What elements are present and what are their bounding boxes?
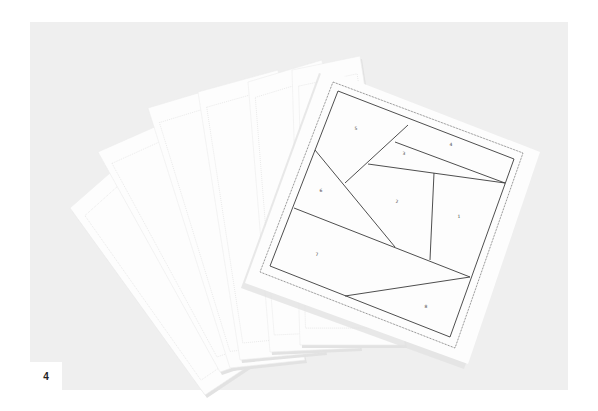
- photo-scene: 12345678: [0, 0, 598, 411]
- piece-number-7: 7: [316, 252, 319, 257]
- piece-number-8: 8: [425, 304, 428, 309]
- piece-number-3: 3: [403, 151, 406, 156]
- figure-number-label: 4: [30, 362, 62, 390]
- piece-number-6: 6: [320, 188, 323, 193]
- piece-number-4: 4: [450, 142, 453, 147]
- piece-number-2: 2: [396, 199, 399, 204]
- figure-number: 4: [43, 371, 49, 382]
- piece-number-1: 1: [458, 214, 461, 219]
- piece-number-5: 5: [355, 126, 358, 131]
